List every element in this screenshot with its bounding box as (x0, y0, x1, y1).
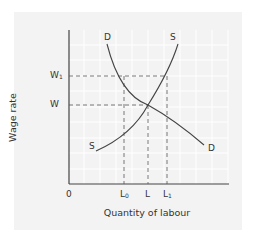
supply-label-bottom: S (89, 142, 95, 151)
supply-label-top: S (170, 33, 176, 42)
demand-label-top: D (104, 33, 111, 42)
demand-curve (107, 44, 204, 145)
y-tick-w: W (50, 100, 59, 109)
x-tick-l: L (145, 190, 150, 199)
y-tick-w1: W1 (50, 71, 63, 80)
demand-label-bottom: D (208, 144, 215, 153)
x-tick-l0: L0 (120, 190, 129, 199)
x-axis-label: Quantity of labour (0, 207, 254, 218)
x-tick-l1: L1 (163, 190, 172, 199)
grid (69, 30, 228, 184)
y-axis-label: Wage rate (7, 88, 18, 148)
origin-label: 0 (66, 190, 72, 199)
